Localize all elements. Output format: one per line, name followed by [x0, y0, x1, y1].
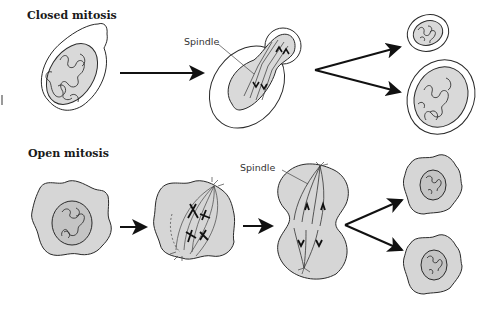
open-daughter-cell-top: [403, 155, 462, 214]
open-split-arrows: [345, 200, 402, 250]
closed-interphase-cell: [36, 23, 108, 113]
open-interphase-cell: [32, 181, 112, 256]
open-prometaphase-cell: [154, 177, 235, 261]
closed-dividing-cell: [194, 28, 301, 143]
mitosis-diagram: [0, 0, 489, 311]
closed-daughter-cell-large: [395, 49, 487, 146]
open-daughter-cell-bottom: [403, 235, 462, 294]
open-anaphase-cell: [278, 162, 349, 279]
closed-split-arrows: [315, 47, 400, 92]
closed-daughter-cell-small: [402, 9, 454, 57]
edge-mark: [1, 95, 3, 105]
